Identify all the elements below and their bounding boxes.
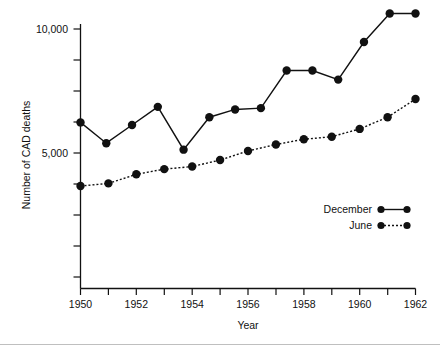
chart-figure: 10,000 5,000 Number of CAD deaths 1950 1… bbox=[0, 0, 440, 352]
x-tick-label-1950: 1950 bbox=[69, 298, 93, 310]
legend-label-june: June bbox=[349, 219, 372, 231]
y-axis-title: Number of CAD deaths bbox=[20, 101, 32, 210]
data-point bbox=[154, 103, 162, 111]
data-point bbox=[411, 95, 419, 103]
x-tick-label-1956: 1956 bbox=[236, 298, 260, 310]
data-point bbox=[160, 165, 168, 173]
data-point bbox=[282, 66, 290, 74]
legend-swatch-december-marker-left bbox=[377, 206, 384, 213]
data-point bbox=[244, 147, 252, 155]
x-tick-label-1962: 1962 bbox=[404, 298, 428, 310]
y-tick-label-10000: 10,000 bbox=[36, 23, 68, 35]
y-tick-label-5000: 5,000 bbox=[42, 147, 68, 159]
legend-label-december: December bbox=[324, 203, 373, 215]
data-point bbox=[383, 113, 391, 121]
data-point bbox=[334, 75, 342, 83]
data-point bbox=[128, 121, 136, 129]
data-point bbox=[272, 140, 280, 148]
data-point bbox=[132, 170, 140, 178]
data-point bbox=[231, 105, 239, 113]
data-point bbox=[386, 9, 394, 17]
data-point bbox=[328, 132, 336, 140]
data-point bbox=[300, 135, 308, 143]
data-point bbox=[355, 125, 363, 133]
legend-swatch-december-marker-right bbox=[403, 206, 410, 213]
legend-swatch-june-marker-right bbox=[403, 222, 410, 229]
x-tick-label-1960: 1960 bbox=[348, 298, 372, 310]
data-point bbox=[188, 162, 196, 170]
cad-deaths-line-chart: 10,000 5,000 Number of CAD deaths 1950 1… bbox=[0, 0, 440, 352]
data-point bbox=[76, 118, 84, 126]
x-tick-label-1952: 1952 bbox=[125, 298, 149, 310]
data-point bbox=[179, 145, 187, 153]
x-tick-label-1958: 1958 bbox=[292, 298, 316, 310]
data-point bbox=[360, 38, 368, 46]
data-point bbox=[76, 182, 84, 190]
x-tick-label-1954: 1954 bbox=[181, 298, 205, 310]
data-point bbox=[308, 66, 316, 74]
data-point bbox=[205, 113, 213, 121]
x-axis-title: Year bbox=[237, 319, 259, 331]
legend-swatch-june-marker-left bbox=[377, 222, 384, 229]
data-point bbox=[411, 9, 419, 17]
data-point bbox=[102, 139, 110, 147]
data-point bbox=[104, 179, 112, 187]
chart-background bbox=[0, 0, 440, 352]
data-point bbox=[216, 156, 224, 164]
data-point bbox=[257, 104, 265, 112]
